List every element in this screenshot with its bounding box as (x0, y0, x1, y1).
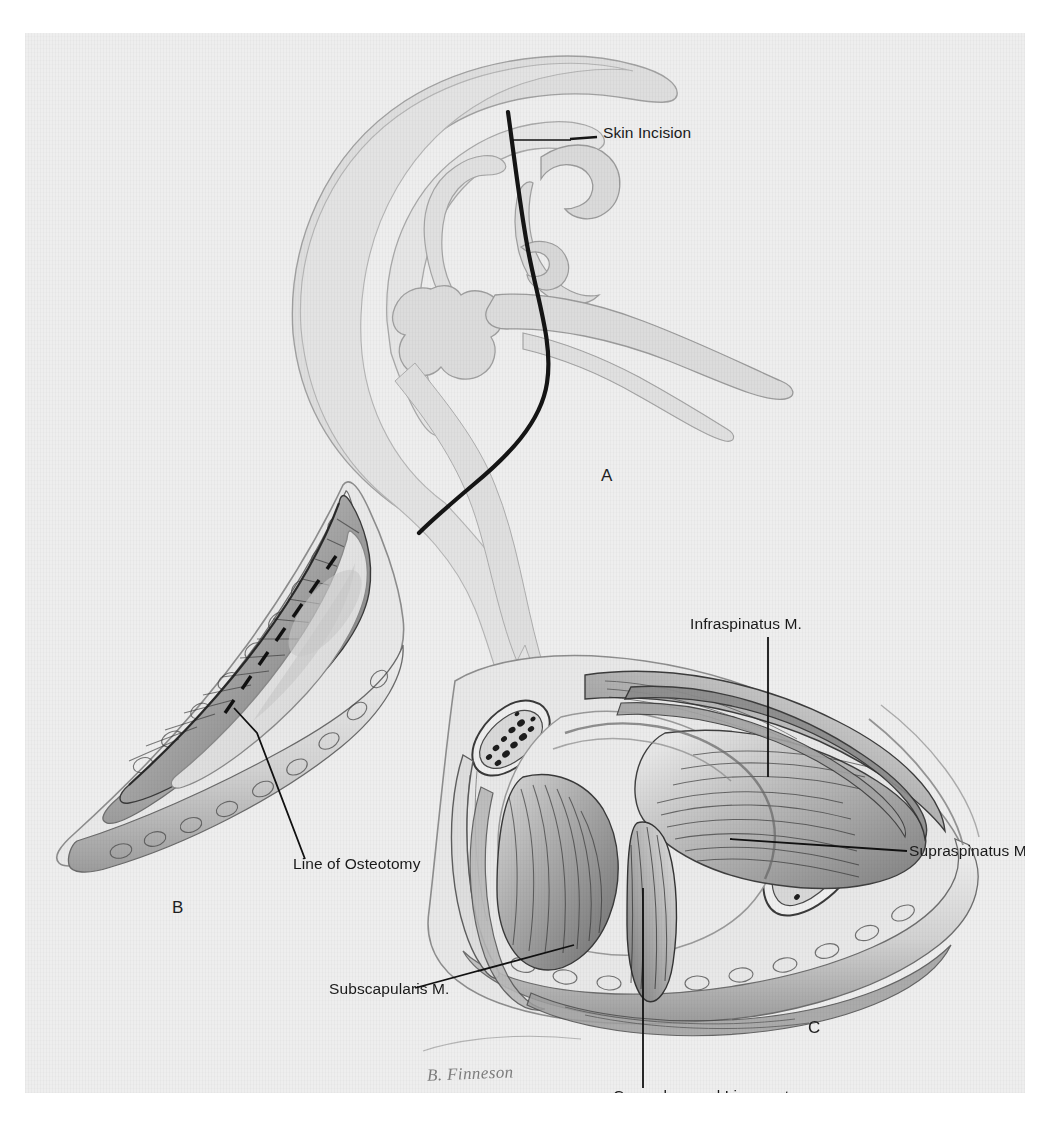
label-skin-incision: Skin Incision (603, 125, 691, 141)
panel-c-artwork (415, 637, 979, 1088)
label-coracohumeral-ligament: Coracohumeral Ligament (613, 1088, 789, 1093)
signature-underline (423, 1036, 581, 1051)
panel-letter-a: A (601, 467, 612, 484)
label-infraspinatus: Infraspinatus M. (690, 616, 802, 632)
label-supraspinatus: Supraspinatus M. (909, 843, 1025, 859)
coracohumeral-ligament-shape (627, 822, 676, 1002)
illustration-artwork (25, 33, 1025, 1093)
panel-letter-b: B (172, 899, 183, 916)
panel-letter-c: C (808, 1019, 820, 1036)
figure-page: Skin Incision Line of Osteotomy Infraspi… (0, 0, 1058, 1137)
artist-signature: B. Finneson (427, 1063, 514, 1083)
label-line-of-osteotomy: Line of Osteotomy (293, 856, 421, 872)
scanned-plate: Skin Incision Line of Osteotomy Infraspi… (25, 33, 1025, 1093)
panel-b-artwork (57, 482, 404, 872)
label-subscapularis: Subscapularis M. (329, 981, 449, 997)
